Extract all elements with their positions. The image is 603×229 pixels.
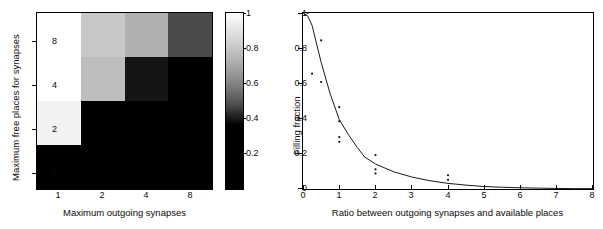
curve-ytickmark-3: [298, 83, 302, 84]
heatmap-cell-r1-c0: [37, 57, 81, 101]
colorbar-tick-1: 0.8: [246, 44, 259, 53]
curve-xtick-4: 4: [438, 191, 458, 200]
heatmap-cell-r3-c0: [37, 145, 81, 189]
heatmap-cell-r0-c0: [37, 13, 81, 57]
scatter-point-10: [374, 172, 376, 174]
curve-panel: 0 0.2 0.4 0.6 0.8 1 0 1 2 3 4 5 6 7 8 Fi…: [290, 0, 603, 229]
curve-xtick-8: 8: [582, 191, 602, 200]
scatter-point-7: [338, 141, 340, 143]
heatmap-cell-r3-c1: [81, 145, 125, 189]
heatmap-cell-r3-c3: [168, 145, 212, 189]
scatter-point-4: [338, 106, 340, 108]
scatter-point-2: [320, 39, 322, 41]
scatter-point-3: [320, 81, 322, 83]
heatmap-ytick-1: 4: [52, 81, 57, 90]
curve-xtickmark-4: [448, 185, 449, 189]
heatmap-cell-r1-c2: [125, 57, 169, 101]
curve-xtickmark-0: [303, 185, 304, 189]
colorbar-tick-0: 1: [246, 9, 251, 18]
heatmap-plot-area: [36, 12, 213, 190]
heatmap-ytick-0: 8: [52, 37, 57, 46]
scatter-point-8: [374, 154, 376, 156]
scatter-point-5: [338, 120, 340, 122]
curve-xtickmark-7: [556, 185, 557, 189]
curve-plot-area: [302, 12, 594, 190]
curve-xtick-2: 2: [365, 191, 385, 200]
colorbar: [225, 12, 244, 190]
heatmap-cell-r2-c0: [37, 101, 81, 145]
colorbar-tick-3: 0.4: [246, 114, 259, 123]
curve-xtickmark-8: [592, 185, 593, 189]
heatmap-cell-r2-c3: [168, 101, 212, 145]
scatter-point-12: [447, 179, 449, 181]
figure-root: 8 4 2 1 1 2 4 8 Maximum free places for …: [0, 0, 603, 229]
curve-xtick-1: 1: [329, 191, 349, 200]
curve-ytickmark-0: [298, 188, 302, 189]
curve-ytickmark-5: [298, 13, 302, 14]
heatmap-y-axis-label: Maximum free places for synapses: [11, 34, 21, 181]
heatmap-cell-r0-c3: [168, 13, 212, 57]
heatmap-ytickmark-3: [32, 173, 36, 174]
heatmap-x-axis-label: Maximum outgoing synapses: [36, 208, 213, 218]
heatmap-xtick-3: 8: [180, 191, 200, 200]
heatmap-ytickmark-1: [32, 85, 36, 86]
heatmap-xtick-2: 4: [136, 191, 156, 200]
colorbar-tick-4: 0.2: [246, 149, 259, 158]
heatmap-cell-r1-c1: [81, 57, 125, 101]
heatmap-cell-grid: [37, 13, 212, 189]
colorbar-tick-2: 0.6: [246, 79, 259, 88]
curve-xtick-6: 6: [510, 191, 530, 200]
heatmap-xtick-0: 1: [48, 191, 68, 200]
scatter-point-1: [311, 73, 313, 75]
heatmap-xtick-1: 2: [92, 191, 112, 200]
curve-xtickmark-2: [375, 185, 376, 189]
scatter-point-9: [374, 168, 376, 170]
heatmap-cell-r2-c2: [125, 101, 169, 145]
fitted-curve-line: [303, 13, 593, 189]
heatmap-xtickmark-2: [146, 185, 147, 189]
heatmap-cell-r0-c1: [81, 13, 125, 57]
curve-xtick-7: 7: [546, 191, 566, 200]
heatmap-cell-r1-c3: [168, 57, 212, 101]
curve-xtick-0: 0: [293, 191, 313, 200]
scatter-points-group: [306, 13, 449, 181]
heatmap-xtickmark-0: [58, 185, 59, 189]
curve-ytickmark-4: [298, 48, 302, 49]
heatmap-ytickmark-0: [32, 41, 36, 42]
curve-xtickmark-3: [411, 185, 412, 189]
curve-ytick-5: 1: [302, 9, 307, 18]
scatter-point-6: [338, 136, 340, 138]
curve-xtickmark-1: [339, 185, 340, 189]
curve-y-axis-label: Filling fraction: [292, 96, 302, 155]
heatmap-cell-r0-c2: [125, 13, 169, 57]
scatter-point-11: [447, 174, 449, 176]
heatmap-cell-r3-c2: [125, 145, 169, 189]
curve-xtick-5: 5: [474, 191, 494, 200]
heatmap-xtickmark-3: [190, 185, 191, 189]
heatmap-ytickmark-2: [32, 129, 36, 130]
heatmap-xtickmark-1: [102, 185, 103, 189]
curve-xtickmark-5: [484, 185, 485, 189]
curve-svg: [303, 13, 593, 189]
curve-xtick-3: 3: [401, 191, 421, 200]
heatmap-panel: 8 4 2 1 1 2 4 8 Maximum free places for …: [0, 0, 290, 229]
heatmap-ytick-3: 1: [52, 169, 57, 178]
heatmap-ytick-2: 2: [52, 125, 57, 134]
curve-xtickmark-6: [520, 185, 521, 189]
heatmap-cell-r2-c1: [81, 101, 125, 145]
curve-x-axis-label: Ratio between outgoing synapses and avai…: [302, 208, 593, 218]
